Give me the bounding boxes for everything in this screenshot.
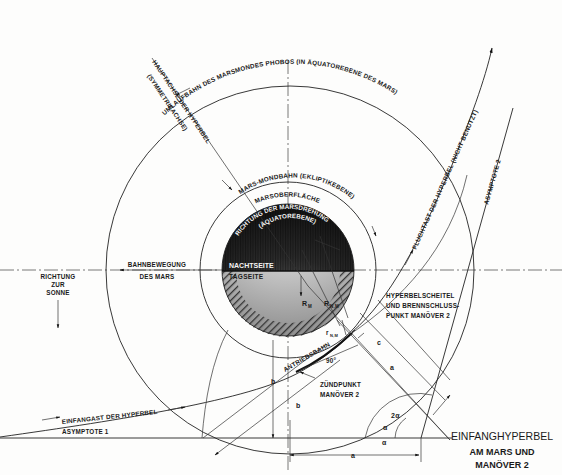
symbol-b-vertical: b (271, 378, 276, 385)
asymptote-2-line (421, 108, 513, 438)
dim-arrow-right (433, 395, 450, 415)
night-side-label: NACHTSEITE (229, 262, 274, 269)
day-side-label: TAGSEITE (229, 273, 264, 280)
symbol-alpha-1: α (382, 439, 387, 446)
hyperbola-branch (352, 175, 467, 333)
diag-line-b (215, 360, 340, 455)
vertex-pointer (358, 333, 364, 338)
escape-arrow (405, 250, 413, 265)
ignition-label-1: ZÜNDPUNKT (320, 380, 361, 388)
symbol-b-diagonal: b (296, 402, 301, 409)
capture-hyperbola-diagram: EINFANGHYPERBEL AM MARS UND MANÖVER 2 UM… (0, 0, 562, 475)
escape-branch-curve (352, 48, 492, 332)
capture-branch-curve (0, 330, 355, 437)
main-axis-arrow (222, 180, 232, 190)
propulsion-arc (296, 333, 352, 372)
asymptote-1-label: ASYMPTOTE 1 (62, 428, 109, 435)
title-line-2: AM MARS UND (470, 447, 535, 457)
asymptote-2-label: ASYMPTOTE 2 (482, 158, 502, 205)
vertex-label-1: HYPERBELSCHEITEL (386, 292, 455, 299)
svg-text:r: r (326, 329, 329, 336)
diagram-canvas: EINFANGHYPERBEL AM MARS UND MANÖVER 2 UM… (0, 0, 562, 475)
moon-orbit-arrow (372, 226, 376, 236)
title-line-3: MANÖVER 2 (475, 460, 529, 470)
orbital-motion-label-1: BAHNBEWEGUNG (128, 261, 186, 268)
angle-arc-alpha (395, 418, 406, 438)
vertex-label-2: UND BRENNSCHLUSS- (386, 302, 459, 309)
symbol-alpha-2: α (383, 424, 388, 431)
svg-text:N,M: N,M (330, 304, 339, 309)
ignition-label-2: MANÖVER 2 (320, 390, 360, 398)
svg-text:R: R (302, 300, 307, 307)
capture-arrow-2 (168, 407, 185, 410)
phobos-orbit-label: UMLAUFBAHN DES MARSMONDES PHOBOS (IN ÄQU… (161, 58, 400, 116)
symbol-r-small: r N,M (326, 329, 338, 338)
sun-direction-label-3: SONNE (46, 289, 69, 296)
symbol-a-diagonal: a (390, 364, 394, 371)
mars-surface-label: MARSOBERFLÄCHE (253, 191, 321, 205)
svg-text:M: M (308, 304, 312, 309)
title-line-1: EINFANGHYPERBEL (451, 430, 553, 442)
sun-direction-label-2: ZUR (51, 281, 65, 288)
vertex-label-3: PUNKT MANÖVER 2 (386, 311, 450, 319)
figure-title: EINFANGHYPERBEL AM MARS UND MANÖVER 2 (451, 430, 553, 470)
symbol-2alpha: 2α (391, 412, 400, 419)
symbol-c: c (377, 339, 381, 346)
capture-branch-label: EINFANGAST DER HYPERBEL (61, 408, 157, 425)
svg-text:N,M: N,M (330, 333, 338, 338)
right-angle-label: 90° (326, 357, 336, 364)
capture-arrow-1 (42, 417, 60, 420)
symbol-a-horizontal: a (351, 452, 355, 459)
ignition-pointer (300, 372, 315, 378)
r-small-tick (342, 320, 346, 335)
sun-direction-label-1: RICHTUNG (41, 273, 76, 280)
svg-text:R: R (324, 300, 329, 307)
orbital-motion-label-2: DES MARS (140, 273, 175, 280)
main-axis-label-1: HAUPTACHSE DER HYPERBEL (151, 59, 212, 145)
